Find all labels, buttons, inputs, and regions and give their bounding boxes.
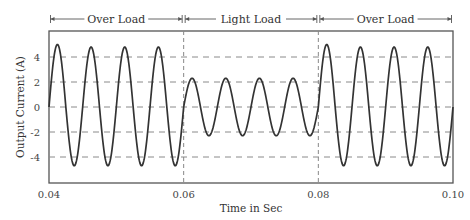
x-tick-label: 0.06 [173,189,195,200]
x-axis-label: Time in Sec [220,202,283,214]
y-tick-label: -4 [30,152,40,163]
y-tick-label: -2 [30,127,40,138]
output-current-line [49,45,453,166]
y-tick-label: 4 [34,52,40,63]
x-tick-label: 0.04 [38,189,60,200]
load-region-annotations: Over LoadLight LoadOver Load [51,13,452,26]
x-axis-ticks: 0.040.060.080.10 [38,189,464,200]
x-tick-label: 0.10 [442,189,464,200]
y-tick-label: 0 [34,102,40,113]
y-axis-label: Output Current (A) [14,56,26,158]
y-axis-ticks: 420-2-4 [30,52,40,163]
y-tick-label: 2 [34,77,40,88]
x-tick-label: 0.08 [307,189,329,200]
region-label: Over Load [87,13,145,26]
region-label: Light Load [221,13,281,26]
region-label: Over Load [357,13,415,26]
chart: 420-2-4 0.040.060.080.10 Over LoadLight … [0,0,470,220]
